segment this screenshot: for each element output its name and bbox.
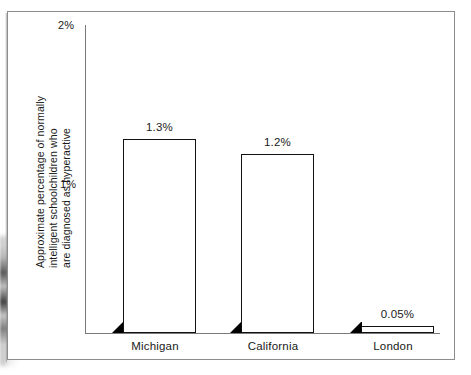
category-label-michigan: Michigan	[95, 340, 215, 352]
y-axis-title-line-1: Approximate percentage of normally	[34, 78, 46, 268]
category-label-california: California	[213, 340, 333, 352]
chart-figure: 2% 1% Approximate percentage of normally…	[0, 0, 471, 375]
bar-michigan-face	[123, 139, 196, 333]
category-label-london: London	[333, 340, 453, 352]
y-axis-title-line-2: intelligent schoolchildren who	[47, 78, 59, 268]
bar-california-face	[241, 154, 314, 333]
x-axis-line	[85, 333, 440, 334]
bar-michigan-value-label: 1.3%	[111, 121, 208, 133]
bar-michigan[interactable]	[112, 128, 196, 333]
y-axis-line	[85, 25, 86, 334]
y-tick-label-2pct: 2%	[58, 19, 74, 31]
y-axis-title-line-3: are diagnosed as hyperactive	[60, 78, 72, 268]
bar-london-face	[361, 326, 434, 333]
bar-london-value-label: 0.05%	[349, 308, 446, 320]
bar-california[interactable]	[230, 143, 314, 333]
y-axis-title: Approximate percentage of normally intel…	[22, 78, 62, 268]
bar-california-value-label: 1.2%	[229, 136, 326, 148]
